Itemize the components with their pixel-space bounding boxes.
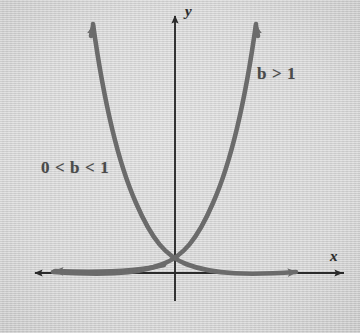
exponential-graph-figure: 0 < b < 1 b > 1 y x	[0, 0, 360, 333]
curve-growth-arrow-head	[256, 26, 258, 36]
y-axis-label: y	[185, 4, 192, 19]
curve-label-growth: b > 1	[257, 65, 296, 82]
curve-decay-arrow-head	[91, 26, 93, 36]
curve-label-growth-text: b > 1	[257, 64, 296, 83]
curve-label-decay-text: 0 < b < 1	[41, 158, 109, 177]
x-axis-label: x	[330, 249, 338, 264]
curve-label-decay: 0 < b < 1	[41, 159, 109, 176]
